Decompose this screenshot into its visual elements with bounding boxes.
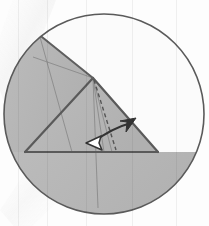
figure-root: Origami fold step diagram bbox=[0, 0, 209, 226]
fold-diagram-svg: Origami fold step diagram bbox=[0, 0, 209, 226]
